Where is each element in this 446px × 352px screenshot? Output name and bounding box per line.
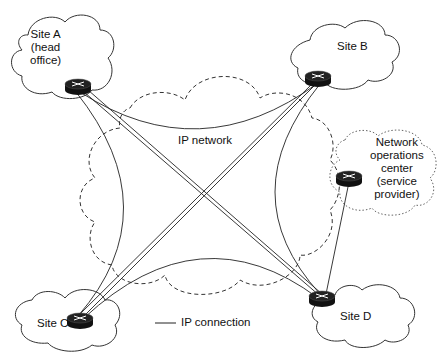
noc-label-line: (service bbox=[370, 175, 424, 188]
legend-label: IP connection bbox=[181, 316, 250, 329]
site-a-label-line: office) bbox=[30, 54, 61, 67]
noc-label-line: provider) bbox=[370, 188, 424, 201]
noc-label-line: operations bbox=[370, 149, 424, 162]
site-d-label: Site D bbox=[340, 310, 371, 323]
site-a-cloud bbox=[12, 15, 114, 99]
router-icon-noc bbox=[336, 171, 362, 187]
site-c-label-line: Site C bbox=[37, 317, 68, 330]
site-b-label: Site B bbox=[337, 40, 368, 53]
router-icon-site-b bbox=[305, 71, 331, 87]
ip-connections bbox=[76, 82, 349, 318]
router-icon-site-a bbox=[65, 79, 91, 95]
ip-network-label: IP network bbox=[178, 134, 232, 147]
site-b-label-line: Site B bbox=[337, 40, 368, 53]
site-c-label: Site C bbox=[37, 317, 68, 330]
site-a-label-line: Site A bbox=[30, 28, 61, 41]
noc-label-line: Network bbox=[370, 136, 424, 149]
router-icon-site-d bbox=[309, 291, 335, 307]
site-a-label: Site A (head office) bbox=[30, 28, 61, 67]
site-a-label-line: (head bbox=[30, 41, 61, 54]
noc-label-line: center bbox=[370, 162, 424, 175]
noc-label: Network operations center (service provi… bbox=[370, 136, 424, 201]
router-icon-site-c bbox=[67, 313, 93, 329]
site-d-label-line: Site D bbox=[340, 310, 371, 323]
